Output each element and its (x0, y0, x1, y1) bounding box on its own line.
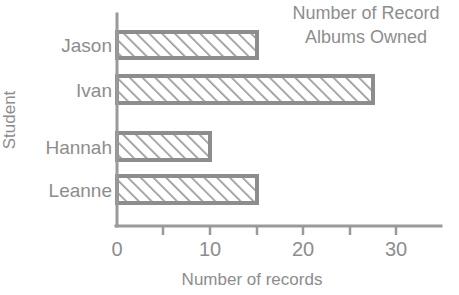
x-axis-tick-labels: 0 10 20 30 (111, 238, 407, 260)
bar-chart: Number of Record Albums Owned Student Ja… (0, 0, 459, 295)
category-label-ivan: Ivan (76, 80, 112, 101)
category-labels: Jason Ivan Hannah Leanne (45, 35, 112, 201)
bars-group (117, 32, 373, 203)
chart-svg: Number of Record Albums Owned Student Ja… (0, 0, 459, 295)
bar-hannah (117, 133, 210, 160)
tick-label-10: 10 (199, 238, 221, 260)
tick-label-0: 0 (111, 238, 122, 260)
category-label-leanne: Leanne (49, 180, 112, 201)
x-axis-title: Number of records (182, 270, 323, 289)
chart-title-line-1: Number of Record (292, 3, 439, 23)
category-label-hannah: Hannah (45, 137, 112, 158)
chart-title-line-2: Albums Owned (305, 27, 427, 47)
chart-title: Number of Record Albums Owned (292, 3, 439, 47)
tick-label-20: 20 (292, 238, 314, 260)
category-label-jason: Jason (61, 35, 112, 56)
y-axis-title: Student (0, 90, 19, 149)
bar-leanne (117, 176, 257, 203)
bar-jason (117, 32, 257, 58)
bar-ivan (117, 76, 373, 103)
tick-label-30: 30 (385, 238, 407, 260)
